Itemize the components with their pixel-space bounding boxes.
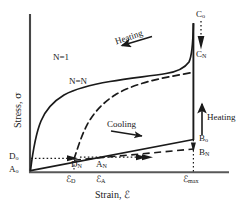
point-label-BN-sub: N (205, 151, 209, 157)
series-label-n1: N=1 (53, 53, 69, 62)
heating-right-label: Heating (207, 113, 236, 122)
point-label-D0-sub: o (16, 155, 19, 161)
point-label-C0: Co (196, 10, 205, 19)
cooling-label: Cooling (107, 120, 136, 129)
xtick-label-eps-D: ℰD (66, 175, 75, 184)
point-label-AN: AN (96, 160, 107, 169)
cooling-arrow (111, 131, 142, 136)
point-label-C0-sub: o (202, 13, 205, 19)
xtick-eps-A-sub: A (101, 178, 105, 184)
point-label-BN: BN (199, 148, 209, 157)
point-label-AN-sub: N (103, 163, 107, 169)
sigma-symbol: σ (12, 92, 23, 99)
x-axis-label: Strain, ℰ (95, 190, 130, 200)
y-axis-label: Stress, σ (13, 92, 23, 128)
point-label-D0: Do (9, 152, 19, 161)
point-label-CN-sub: N (202, 53, 206, 59)
point-label-DN-sub: N (78, 163, 82, 169)
line-cooling-first-cycle (31, 140, 194, 171)
stress-strain-chart: Stress, σ Strain, ℰ N=1 N=N Heating Cool… (0, 0, 236, 209)
x-axis-label-text: Strain, (95, 189, 121, 200)
point-label-A0-sub: o (16, 168, 19, 174)
xtick-label-eps-max: ℰmax (183, 175, 199, 184)
point-label-DN: DN (71, 160, 82, 169)
epsilon-symbol: ℰ (124, 189, 130, 200)
y-axis-label-text: Stress, (12, 102, 23, 128)
xtick-eps-D-sub: D (71, 178, 75, 184)
co-to-cn-arrowhead (198, 36, 205, 50)
point-label-B0: Bo (199, 134, 208, 143)
xtick-label-eps-A: ℰA (96, 175, 105, 184)
xtick-eps-max-sub: max (188, 178, 199, 184)
chart-canvas (0, 0, 236, 209)
dn-to-an-arrowhead-2 (142, 154, 153, 160)
point-label-B0-sub: o (205, 137, 208, 143)
point-label-CN: CN (196, 50, 206, 59)
series-label-nN: N=N (69, 77, 87, 86)
point-label-A0: Ao (9, 165, 19, 174)
